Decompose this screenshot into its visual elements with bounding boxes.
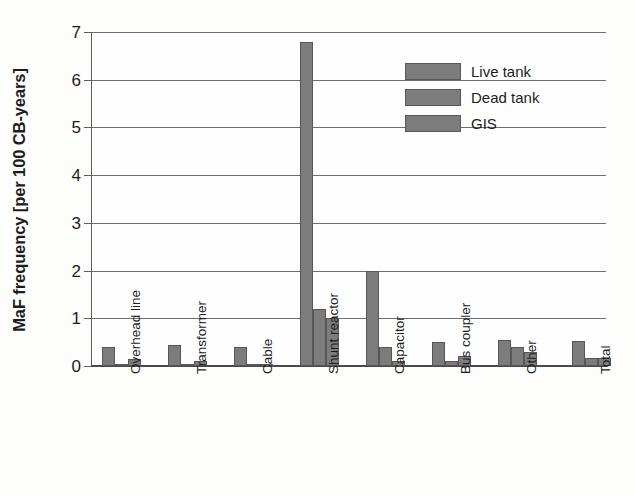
legend-item: Live tank — [405, 60, 531, 82]
x-category-label: Transformer — [194, 301, 209, 374]
x-category-label: Bus coupler — [458, 303, 473, 374]
legend-label: GIS — [471, 115, 497, 132]
bar-chart-figure: MaF frequency [per 100 CB-years] 0123456… — [0, 0, 635, 495]
x-category-label: Other — [524, 340, 539, 374]
x-category-label: Overhead line — [128, 290, 143, 374]
bar — [300, 42, 313, 366]
chart-legend: Live tankDead tankGIS — [405, 60, 555, 140]
y-axis-title: MaF frequency [per 100 CB-years] — [6, 32, 32, 368]
y-tick-label: 2 — [72, 262, 81, 279]
bar — [498, 340, 511, 366]
legend-swatch — [405, 89, 461, 106]
y-tick-label: 7 — [72, 24, 81, 41]
y-tick-label: 1 — [72, 310, 81, 327]
y-tick-label: 0 — [72, 358, 81, 375]
bar — [247, 364, 260, 366]
legend-swatch — [405, 115, 461, 132]
y-tick-label: 3 — [72, 214, 81, 231]
x-category-label: Cable — [260, 339, 275, 374]
legend-item: GIS — [405, 112, 497, 134]
bar — [313, 309, 326, 366]
bar — [511, 347, 524, 366]
legend-item: Dead tank — [405, 86, 539, 108]
bar — [585, 358, 598, 366]
bar — [234, 347, 247, 366]
x-category-label: Capacitor — [392, 316, 407, 374]
legend-label: Dead tank — [471, 89, 539, 106]
bar — [102, 347, 115, 366]
bar — [379, 347, 392, 366]
x-category-label: Total — [598, 345, 613, 374]
y-tick-label: 4 — [72, 167, 81, 184]
y-tick-label: 6 — [72, 71, 81, 88]
bar — [572, 341, 585, 366]
bar — [432, 342, 445, 366]
bar — [168, 345, 181, 366]
legend-swatch — [405, 63, 461, 80]
bar — [366, 271, 379, 366]
x-category-label: Shunt reactor — [326, 293, 341, 374]
y-tick-label: 5 — [72, 119, 81, 136]
legend-label: Live tank — [471, 63, 531, 80]
bar — [181, 364, 194, 366]
bar — [445, 361, 458, 366]
bar — [115, 364, 128, 366]
